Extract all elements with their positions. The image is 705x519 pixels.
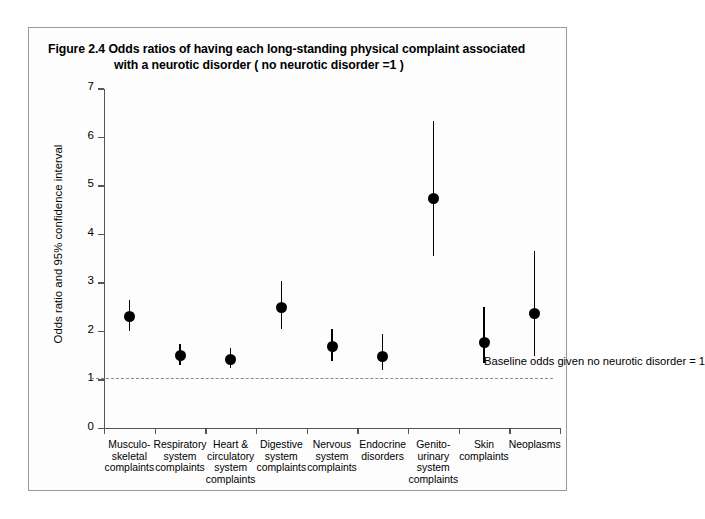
data-point — [428, 193, 439, 204]
data-point — [327, 341, 338, 352]
y-tick-6: 6 — [98, 137, 104, 138]
x-tick-1 — [155, 428, 156, 434]
confidence-interval-bar — [433, 121, 435, 257]
y-tick-7: 7 — [98, 88, 104, 89]
data-point — [124, 311, 135, 322]
figure-panel: Figure 2.4 Odds ratios of having each lo… — [28, 27, 567, 491]
x-tick-6 — [408, 428, 409, 434]
x-tick-2 — [205, 428, 206, 434]
y-tick-label-6: 6 — [88, 129, 94, 141]
x-axis-line — [104, 428, 560, 429]
plot-area: Odds ratio and 95% confidence interval 0… — [29, 28, 568, 492]
x-tick-8 — [509, 428, 510, 434]
x-tick-4 — [307, 428, 308, 434]
y-tick-label-5: 5 — [88, 177, 94, 189]
data-point — [479, 337, 490, 348]
data-point — [377, 351, 388, 362]
y-tick-5: 5 — [98, 185, 104, 186]
y-tick-label-3: 3 — [88, 274, 94, 286]
x-tick-3 — [256, 428, 257, 434]
y-tick-label-0: 0 — [88, 420, 94, 432]
x-tick-0 — [104, 428, 105, 434]
x-tick-9 — [560, 428, 561, 434]
y-tick-label-7: 7 — [88, 80, 94, 92]
y-tick-label-4: 4 — [88, 226, 94, 238]
y-tick-2: 2 — [98, 331, 104, 332]
y-tick-label-2: 2 — [88, 323, 94, 335]
data-point — [529, 308, 540, 319]
y-tick-3: 3 — [98, 282, 104, 283]
data-point — [175, 350, 186, 361]
x-category-label: Neoplasms — [505, 439, 564, 451]
confidence-interval-bar — [483, 307, 485, 363]
confidence-interval-bar — [534, 251, 536, 355]
x-tick-7 — [459, 428, 460, 434]
data-point — [225, 354, 236, 365]
baseline-annotation: Baseline odds given no neurotic disorder… — [484, 355, 705, 368]
x-tick-5 — [357, 428, 358, 434]
y-tick-4: 4 — [98, 234, 104, 235]
baseline-reference-line — [91, 378, 553, 380]
data-point — [276, 302, 287, 313]
y-axis-title: Odds ratio and 95% confidence interval — [52, 119, 64, 369]
